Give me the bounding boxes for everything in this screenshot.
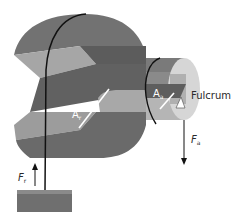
fulcrum-label: Fulcrum [191,90,231,101]
load-block [17,190,72,212]
applied-force-label: Fa [191,134,201,146]
resistance-arm-label: Ar [72,109,82,121]
resistance-force-label: Fr [18,172,27,184]
applied-force-arrow [181,120,187,165]
axle-slab [146,84,186,98]
wheel-axle-diagram: Ar Aa Fulcrum Fa Fr [0,0,244,222]
resistance-force-arrow [32,163,38,186]
